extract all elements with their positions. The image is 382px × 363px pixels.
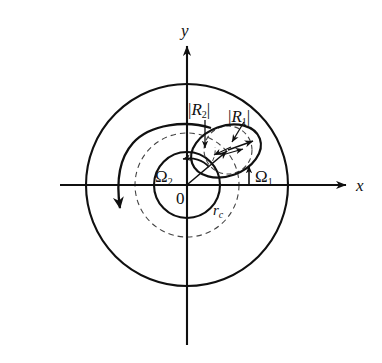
rc-label: rc [213, 203, 223, 218]
omega2-symbol: Ω [155, 167, 168, 186]
r1-subscript: 1 [242, 116, 247, 127]
omega1-subscript: 1 [268, 176, 273, 187]
rc-subscript: c [219, 209, 223, 220]
omega1-symbol: Ω [255, 167, 268, 186]
omega2-label: Ω2 [155, 168, 173, 185]
r2-magnitude-label: |R2| [188, 101, 210, 118]
omega2-subscript: 2 [168, 176, 173, 187]
x-axis-label: x [356, 177, 364, 194]
omega1-label: Ω1 [255, 168, 273, 185]
r2-subscript: 2 [202, 109, 207, 120]
rc-symbol: r [213, 202, 219, 218]
y-axis-label: y [181, 22, 189, 39]
diagram-canvas [0, 0, 382, 363]
r2-bar-close: | [207, 100, 210, 119]
r2-symbol: R [191, 100, 201, 119]
r1-symbol: R [231, 107, 241, 126]
origin-label: 0 [176, 190, 185, 207]
r1-bar-close: | [247, 107, 250, 126]
r1-magnitude-label: |R1| [228, 108, 250, 125]
figure-container: y x |R2| |R1| Ω2 Ω1 0 rc [0, 0, 382, 363]
R1-vector-arrow [228, 141, 253, 150]
